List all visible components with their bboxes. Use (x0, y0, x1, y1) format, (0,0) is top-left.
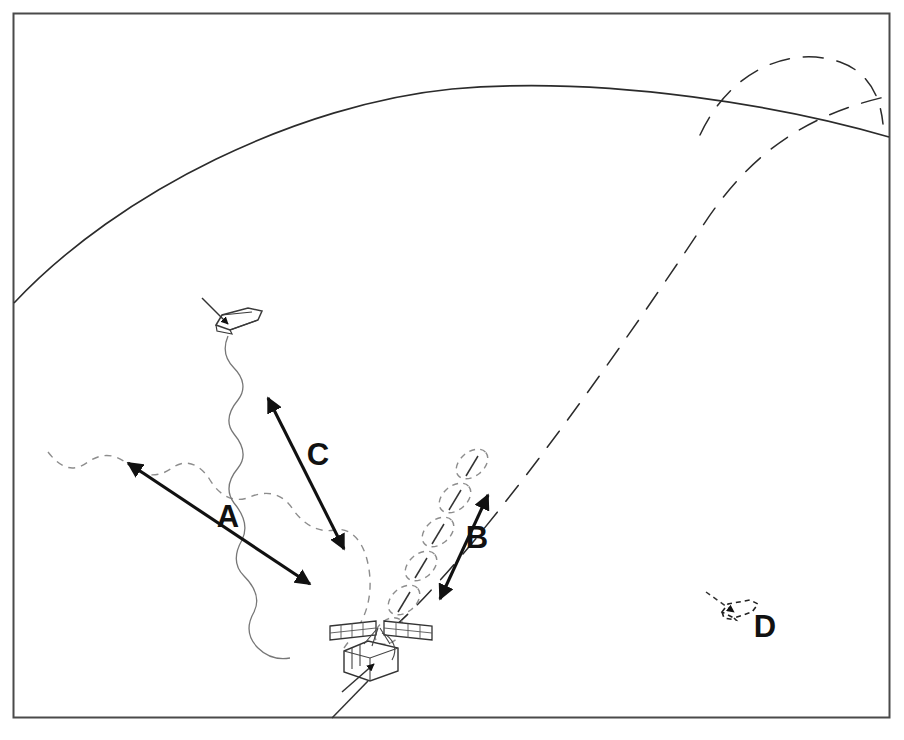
ghost-aircraft (706, 592, 758, 620)
aircraft (202, 298, 262, 334)
link-c-arrow (268, 398, 344, 549)
link-label-b: B (466, 520, 488, 555)
satellite (330, 621, 432, 692)
link-label-c: C (307, 437, 329, 472)
ground-station-pointer (332, 681, 368, 718)
ghost-aircraft-pointer (706, 592, 734, 612)
earth-horizon-curve (14, 86, 889, 303)
link-a-signal-wave (48, 452, 370, 648)
link-label-a: A (217, 499, 239, 534)
object-label-d: D (754, 609, 776, 644)
orbit-apex-arc (700, 57, 883, 135)
aircraft-pointer (202, 298, 228, 324)
figure-canvas: A B C D (0, 0, 904, 740)
diagram-svg: A B C D (0, 0, 904, 740)
